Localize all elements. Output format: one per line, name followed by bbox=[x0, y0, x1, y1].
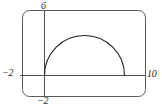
x-axis-max-label: 10 bbox=[147, 69, 157, 79]
semicircle-curve bbox=[45, 36, 125, 76]
screen-frame bbox=[23, 11, 146, 97]
plot-canvas bbox=[0, 0, 162, 108]
y-axis-max-label: 6 bbox=[41, 1, 46, 11]
x-axis-min-label: −2 bbox=[2, 68, 13, 78]
y-axis-min-label: −2 bbox=[37, 96, 48, 106]
graph-figure: 6 −2 10 −2 bbox=[0, 0, 162, 108]
